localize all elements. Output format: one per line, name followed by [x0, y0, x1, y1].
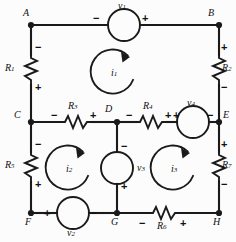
- source-v4-symbol: [177, 106, 209, 138]
- source-v1-symbol: [108, 9, 140, 41]
- source-v4-minus: −: [207, 110, 213, 121]
- resistor-r6-label: R6: [157, 221, 167, 231]
- node-label-a: A: [23, 8, 29, 18]
- source-v1-minus: −: [93, 13, 99, 24]
- resistor-r3-label: R3: [68, 101, 78, 111]
- resistor-r4-plus: +: [165, 110, 171, 121]
- resistor-r4-minus: −: [126, 110, 132, 121]
- junction-dot-b: [216, 22, 222, 28]
- node-label-b: B: [208, 8, 214, 18]
- source-v2-minus: −: [91, 208, 97, 219]
- junction-dot-d: [114, 119, 120, 125]
- source-v2-plus: +: [44, 208, 50, 219]
- mesh-current-i3-label: i3: [171, 164, 177, 174]
- resistor-r5-label: R5: [5, 160, 15, 170]
- resistor-r7-minus: −: [221, 179, 227, 190]
- resistor-r3-plus: +: [90, 110, 96, 121]
- resistor-r5-minus: −: [35, 139, 41, 150]
- resistor-r3-symbol: [62, 116, 92, 128]
- resistor-r2-minus: −: [221, 82, 227, 93]
- resistor-r4-label: R4: [143, 101, 153, 111]
- source-v1-label: v1: [118, 1, 126, 11]
- source-v1-plus: +: [142, 13, 148, 24]
- source-v3-symbol: [101, 152, 133, 184]
- resistor-r5-plus: +: [35, 179, 41, 190]
- mesh-current-i1-label: i1: [111, 68, 117, 78]
- source-v4-plus: +: [173, 110, 179, 121]
- node-label-d: D: [105, 104, 112, 114]
- source-v3-plus: +: [121, 181, 127, 192]
- resistor-r6-symbol: [150, 207, 180, 219]
- junction-dot-a: [28, 22, 34, 28]
- source-v4-label: v4: [187, 98, 195, 108]
- resistor-r2-plus: +: [221, 42, 227, 53]
- node-label-e: E: [223, 110, 229, 120]
- resistor-r4-symbol: [137, 116, 167, 128]
- source-v2-symbol: [57, 197, 89, 229]
- mesh-current-i2-label: i2: [66, 164, 72, 174]
- resistor-r1-label: R1: [5, 63, 15, 73]
- resistor-r1-minus: −: [35, 42, 41, 53]
- node-label-g: G: [111, 217, 118, 227]
- resistor-r7-label: R7: [222, 160, 232, 170]
- resistor-r3-minus: −: [51, 110, 57, 121]
- source-v2-label: v2: [67, 228, 75, 238]
- resistor-r1-plus: +: [35, 82, 41, 93]
- junction-dot-c: [28, 119, 34, 125]
- resistor-r7-plus: +: [221, 139, 227, 150]
- circuit-diagram: A B C D E F G H R1 − + R5 − + R2 + − R7 …: [0, 0, 236, 242]
- source-v3-label: v3: [137, 163, 145, 173]
- circuit-schematic-svg: [0, 0, 236, 242]
- node-label-c: C: [14, 110, 21, 120]
- junction-dot-e: [216, 119, 222, 125]
- resistor-r2-label: R2: [222, 63, 232, 73]
- source-v3-minus: −: [121, 141, 127, 152]
- resistor-r6-plus: +: [180, 218, 186, 229]
- node-label-f: F: [25, 217, 31, 227]
- node-label-h: H: [213, 217, 220, 227]
- resistor-r6-minus: −: [139, 218, 145, 229]
